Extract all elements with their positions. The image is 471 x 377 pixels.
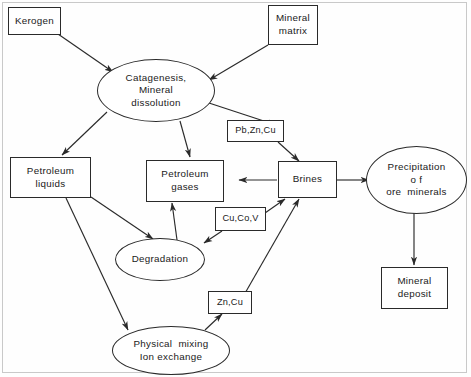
node-precipitation[interactable]: Precipitation o f ore minerals [366, 146, 467, 214]
node-mineral-matrix[interactable]: Mineral matrix [268, 5, 318, 45]
node-zn-cu[interactable]: Zn,Cu [208, 291, 252, 314]
edge-mineralmatrix-to-catagenesis [209, 45, 268, 80]
node-cu-co-v[interactable]: Cu,Co,V [215, 207, 266, 231]
node-kerogen-label-0: Kerogen [15, 15, 54, 28]
node-precipitation-label-1: o f [411, 174, 423, 187]
node-catagenesis-label-2: dissolution [131, 97, 181, 110]
node-catagenesis-label-1: Mineral [139, 84, 173, 97]
node-catagenesis-label-0: Catagenesis, [126, 72, 187, 85]
node-petroleum-gases-label-0: Petroleum [161, 168, 208, 181]
node-petroleum-liquids[interactable]: Petroleum liquids [10, 157, 91, 198]
edge-kerogen-to-catagenesis [58, 34, 113, 72]
node-catagenesis[interactable]: Catagenesis, Mineral dissolution [97, 59, 215, 122]
node-petroleum-liquids-label-0: Petroleum [27, 165, 74, 178]
node-kerogen[interactable]: Kerogen [8, 7, 61, 35]
node-pb-zn-cu[interactable]: Pb,Zn,Cu [227, 120, 284, 142]
edge-degradation-to-gases [172, 203, 177, 240]
node-precipitation-label-0: Precipitation [388, 161, 446, 174]
node-degradation-label-0: Degradation [132, 253, 189, 266]
node-precipitation-label-2: ore minerals [386, 186, 447, 199]
node-petroleum-liquids-label-1: liquids [36, 178, 66, 191]
node-petroleum-gases[interactable]: Petroleum gases [146, 160, 224, 202]
edge-cucov-to-degradation [204, 231, 222, 243]
node-physical-mixing-label-1: Ion exchange [140, 351, 202, 364]
edge-physicalmixing-to-zncu [205, 314, 222, 330]
node-mineral-matrix-label-0: Mineral [276, 12, 310, 25]
node-brines-label-0: Brines [293, 173, 323, 186]
node-degradation[interactable]: Degradation [115, 238, 205, 281]
node-pb-zn-cu-label-0: Pb,Zn,Cu [235, 125, 275, 137]
node-mineral-deposit-label-0: Mineral [397, 275, 431, 288]
node-physical-mixing[interactable]: Physical mixing Ion exchange [112, 326, 230, 375]
node-petroleum-gases-label-1: gases [171, 181, 199, 194]
edge-pbzncu-to-brines [278, 142, 299, 161]
edge-catagenesis-to-liquids [62, 112, 107, 155]
node-mineral-deposit-label-1: deposit [398, 288, 432, 301]
node-mineral-matrix-label-1: matrix [279, 25, 307, 38]
edge-catagenesis-to-gases [180, 121, 190, 157]
node-zn-cu-label-0: Zn,Cu [217, 297, 243, 309]
node-physical-mixing-label-0: Physical mixing [133, 338, 208, 351]
edge-liquids-to-degradation [91, 197, 153, 239]
node-mineral-deposit[interactable]: Mineral deposit [381, 267, 448, 309]
edge-cucov-to-brines [265, 199, 285, 213]
diagram-canvas: Kerogen Mineral matrix Catagenesis, Mine… [0, 0, 471, 377]
node-brines[interactable]: Brines [278, 161, 337, 198]
node-cu-co-v-label-0: Cu,Co,V [222, 213, 258, 225]
